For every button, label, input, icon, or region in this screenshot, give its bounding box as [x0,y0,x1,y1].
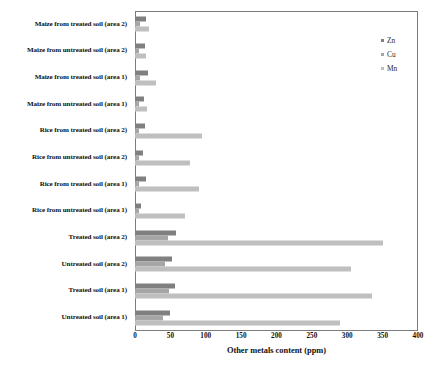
x-axis-tick-label: 150 [236,332,247,340]
bar-group-bars [135,150,418,165]
bar-group-bars [135,177,418,192]
bar-mn [135,267,351,272]
y-axis-label: Rice from untreated soil (area 1) [0,198,131,225]
bar-group-bars [135,203,418,218]
x-axis-tick-label: 0 [133,332,137,340]
bar-mn [135,27,149,32]
y-axis-label: Maize from untreated soil (area 2) [0,38,131,65]
bar-group [135,224,418,251]
legend-swatch-icon [381,39,384,42]
bar-group [135,118,418,145]
legend-label: Cu [387,50,396,59]
y-axis-label: Maize from untreated soil (area 1) [0,91,131,118]
y-axis-label: Treated soil (area 2) [0,224,131,251]
y-axis-label: Rice from treated soil (area 1) [0,171,131,198]
bar-group-bars [135,17,418,32]
legend: ZnCuMn [381,36,397,73]
y-axis-label: Rice from treated soil (area 2) [0,118,131,145]
x-axis-tick-label: 200 [271,332,282,340]
bar-mn [135,293,372,298]
bar-mn [135,133,202,138]
legend-swatch-icon [381,53,384,56]
bar-mn [135,240,383,245]
bar-group-bars [135,70,418,85]
y-axis-label: Untreated soil (area 1) [0,304,131,331]
bar-chart: Maize from treated soil (area 2)Maize fr… [0,0,447,373]
bar-group [135,64,418,91]
x-axis-tick-label: 250 [306,332,317,340]
bar-group [135,91,418,118]
legend-label: Zn [387,36,395,45]
bar-group [135,144,418,171]
x-axis-tick-label: 50 [167,332,174,340]
bar-group-bars [135,97,418,112]
bar-group [135,171,418,198]
bar-group-bars [135,230,418,245]
bar-group [135,198,418,225]
y-axis-category-labels: Maize from treated soil (area 2)Maize fr… [0,11,131,331]
bar-group-bars [135,43,418,58]
bar-mn [135,160,190,165]
legend-swatch-icon [381,67,384,70]
y-axis-label: Maize from treated soil (area 2) [0,11,131,38]
bar-group-bars [135,257,418,272]
y-axis-label: Untreated soil (area 2) [0,251,131,278]
legend-item-mn: Mn [381,64,397,73]
legend-item-cu: Cu [381,50,397,59]
x-axis-ticks: 050100150200250300350400 [135,332,418,346]
y-axis-label: Maize from treated soil (area 1) [0,64,131,91]
bar-group [135,304,418,331]
y-axis-label: Rice from untreated soil (area 2) [0,144,131,171]
bar-group [135,38,418,65]
x-axis-tick-label: 100 [200,332,211,340]
bar-mn [135,187,199,192]
legend-label: Mn [387,64,397,73]
x-axis-title: Other metals content (ppm) [135,346,418,355]
bar-group [135,11,418,38]
legend-item-zn: Zn [381,36,397,45]
bar-rows-container [135,11,418,331]
bar-mn [135,80,156,85]
y-axis-label: Treated soil (area 1) [0,278,131,305]
bar-mn [135,53,146,58]
x-axis-tick-label: 350 [377,332,388,340]
bar-mn [135,213,185,218]
bar-group [135,251,418,278]
bar-group-bars [135,283,418,298]
bar-mn [135,320,340,325]
x-axis-tick-label: 300 [342,332,353,340]
bar-group-bars [135,123,418,138]
x-axis-tick-label: 400 [413,332,424,340]
bar-mn [135,107,147,112]
bar-group [135,278,418,305]
bar-group-bars [135,310,418,325]
